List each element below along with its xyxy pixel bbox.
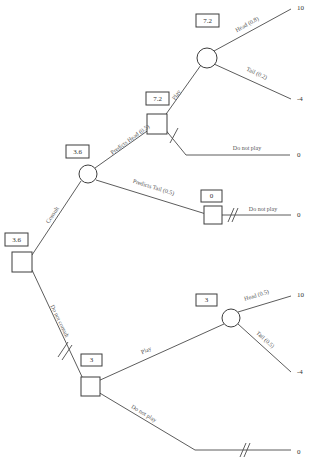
decision-tree-diagram: 3.6 3.6 7.2 7.2 0 3 3 Consult Do not con… — [0, 0, 310, 470]
edge-head-top — [214, 9, 291, 51]
value-tail-decision: 0 — [210, 192, 214, 200]
value-root: 3.6 — [12, 236, 21, 244]
node-root-decision[interactable] — [12, 252, 32, 272]
label-play-bottom: Play — [140, 345, 152, 355]
label-tail-bottom: Tail (0.5) — [254, 330, 275, 350]
payoff-tail-bottom: -4 — [297, 368, 303, 376]
edge-do-not-play-bottom — [98, 392, 291, 450]
label-consult: Consult — [45, 205, 61, 224]
value-no-consult-chance: 3 — [205, 296, 209, 304]
value-head-decision: 7.2 — [153, 95, 162, 103]
edge-play-bottom — [98, 324, 224, 381]
payoff-tail-top: -4 — [297, 95, 303, 103]
edge-play-top — [164, 65, 201, 117]
edge-do-not-consult — [32, 270, 84, 381]
value-consult-chance: 3.6 — [73, 148, 82, 156]
label-do-not-play-mid: Do not play — [249, 206, 277, 212]
label-do-not-play-top: Do not play — [233, 145, 261, 151]
node-no-consult-chance[interactable] — [222, 309, 240, 327]
edge-consult — [32, 181, 81, 255]
node-head-chance[interactable] — [197, 48, 217, 68]
edge-tail-bottom — [238, 324, 291, 372]
label-tail-top: Tail (0.2) — [245, 66, 268, 82]
label-predicts-head: Predicts Head (0.5) — [109, 123, 151, 156]
payoff-do-not-play-bottom: 0 — [297, 448, 301, 456]
edge-predicts-head — [95, 129, 150, 168]
label-head-bottom: Head (0.5) — [243, 288, 270, 302]
payoff-do-not-play-mid: 0 — [297, 211, 301, 219]
label-do-not-consult: Do not consult — [49, 304, 70, 339]
label-head-top: Head (0.8) — [234, 15, 260, 34]
edge-do-not-play-top — [164, 128, 290, 155]
value-no-consult-decision: 3 — [90, 356, 94, 364]
prune-mark-do-not-consult-a — [58, 342, 68, 357]
payoff-do-not-play-top: 0 — [297, 151, 301, 159]
payoff-head-bottom: 10 — [297, 291, 305, 299]
value-head-chance: 7.2 — [203, 17, 212, 25]
payoff-head-top: 10 — [297, 4, 305, 12]
node-tail-decision[interactable] — [204, 206, 222, 224]
node-head-decision[interactable] — [147, 114, 167, 134]
label-predicts-tail: Predicts Tail (0.5) — [132, 178, 175, 197]
node-no-consult-decision[interactable] — [81, 377, 100, 396]
node-consult-chance[interactable] — [79, 165, 97, 183]
